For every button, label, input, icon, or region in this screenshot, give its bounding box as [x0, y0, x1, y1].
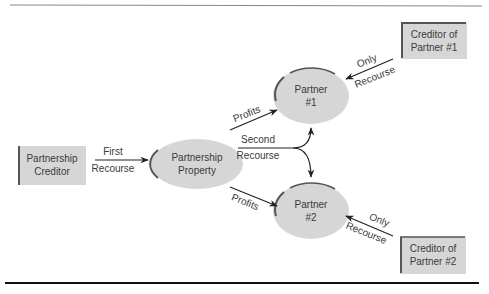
partner-2-label-2: #2	[305, 212, 317, 223]
profits-to-partner-1-label: Profits	[231, 103, 261, 124]
partnership-property-node: Partnership Property	[150, 139, 243, 189]
second-recourse-edge: Second Recourse	[237, 128, 311, 177]
profits-to-partner-2-edge: Profits	[230, 187, 277, 212]
partnership-property-label-2: Property	[178, 165, 216, 176]
profits-to-partner-1-edge: Profits	[230, 103, 277, 130]
recourse-diagram: Partnership Creditor First Recourse Part…	[0, 0, 489, 294]
profits-to-partner-2-label: Profits	[230, 191, 260, 212]
partnership-property-label-1: Partnership	[171, 152, 223, 163]
partner-2-node: Partner #2	[273, 183, 349, 239]
creditor-partner-1-label-1: Creditor of	[411, 29, 458, 40]
first-recourse-label-2: Recourse	[92, 163, 135, 174]
second-recourse-label-1: Second	[241, 134, 275, 145]
creditor-partner-2-node: Creditor of Partner #2	[400, 237, 466, 274]
creditor-partner-2-label-1: Creditor of	[410, 243, 457, 254]
first-recourse-label-1: First	[103, 146, 123, 157]
creditor-partner-2-label-2: Partner #2	[410, 256, 457, 267]
creditor-partner-1-node: Creditor of Partner #1	[401, 22, 467, 59]
partnership-creditor-label-1: Partnership	[26, 153, 78, 164]
partner-2-label-1: Partner	[295, 199, 328, 210]
creditor-partner-1-label-2: Partner #1	[411, 42, 458, 53]
partner-1-label-1: Partner	[295, 84, 328, 95]
only-recourse-partner-2-edge: Only Recourse	[344, 211, 393, 246]
second-recourse-label-2: Recourse	[237, 150, 280, 161]
top-rule	[10, 5, 482, 6]
partner-1-node: Partner #1	[273, 68, 349, 124]
only-recourse-partner-2-label-1: Only	[368, 211, 391, 229]
partner-1-label-2: #1	[305, 97, 317, 108]
partnership-creditor-label-2: Creditor	[34, 166, 70, 177]
first-recourse-edge: First Recourse	[92, 146, 148, 174]
partnership-creditor-node: Partnership Creditor	[18, 146, 86, 185]
only-recourse-partner-1-edge: Only Recourse	[346, 52, 397, 90]
